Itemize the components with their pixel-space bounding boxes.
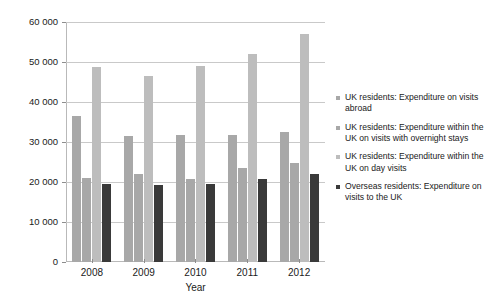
bar [134, 174, 143, 262]
bar [290, 163, 299, 262]
x-axis-tick-label: 2012 [288, 268, 310, 278]
x-axis-tick-label: 2010 [184, 268, 206, 278]
legend-item[interactable]: UK residents: Expenditure within the UK … [336, 122, 492, 145]
bar [102, 184, 111, 262]
x-axis-tick [299, 259, 300, 263]
bar-group: 2009 [118, 22, 170, 262]
legend-swatch-icon [336, 96, 340, 100]
bar [280, 132, 289, 262]
x-axis-tick-label: 2009 [133, 268, 155, 278]
bar-group: 2010 [170, 22, 222, 262]
x-axis-tick [247, 259, 248, 263]
y-axis-tick-label: 10 000 [29, 217, 58, 227]
y-axis-tick-label: 30 000 [29, 137, 58, 147]
x-axis-tick [195, 259, 196, 263]
bar-group: 2008 [66, 22, 118, 262]
x-axis-tick-label: 2011 [237, 268, 259, 278]
plot-area: 010 00020 00030 00040 00050 00060 000 20… [66, 22, 325, 262]
bar-group: 2011 [221, 22, 273, 262]
legend-swatch-icon [336, 126, 340, 130]
bar [186, 179, 195, 262]
bar [248, 54, 257, 262]
bar [300, 34, 309, 262]
bar [196, 66, 205, 262]
y-axis-tick-label: 50 000 [29, 57, 58, 67]
legend-swatch-icon [336, 185, 340, 189]
bar [124, 136, 133, 262]
x-axis-tick-label: 2008 [81, 268, 103, 278]
legend-item-label: UK residents: Expenditure on visits abro… [345, 92, 492, 115]
bar [144, 76, 153, 262]
legend-swatch-icon [336, 155, 340, 159]
bar [310, 174, 319, 262]
legend-item[interactable]: UK residents: Expenditure on visits abro… [336, 92, 492, 115]
legend-item[interactable]: UK residents: Expenditure within the UK … [336, 151, 492, 174]
bar [206, 184, 215, 262]
y-axis-tick-label: 20 000 [29, 177, 58, 187]
bar [154, 185, 163, 262]
bar [176, 135, 185, 262]
y-axis-tick [62, 262, 66, 263]
legend-item-label: UK residents: Expenditure within the UK … [345, 122, 492, 145]
y-axis-tick-label: 40 000 [29, 97, 58, 107]
bar [92, 67, 101, 262]
bar [82, 178, 91, 262]
bar-chart: 010 00020 00030 00040 00050 00060 000 20… [0, 0, 496, 301]
bar [72, 116, 81, 262]
legend-item[interactable]: Overseas residents: Expenditure on visit… [336, 181, 492, 204]
bar [258, 179, 267, 262]
x-axis-tick [92, 259, 93, 263]
y-axis-tick-label: 0 [53, 257, 58, 267]
bar [238, 168, 247, 262]
legend-item-label: Overseas residents: Expenditure on visit… [345, 181, 492, 204]
x-axis-title: Year [66, 283, 325, 293]
chart-legend: UK residents: Expenditure on visits abro… [336, 92, 492, 211]
x-axis-tick [144, 259, 145, 263]
bar-group: 2012 [273, 22, 325, 262]
y-axis-tick-label: 60 000 [29, 17, 58, 27]
bar [228, 135, 237, 262]
bar-groups: 20082009201020112012 [66, 22, 325, 262]
legend-item-label: UK residents: Expenditure within the UK … [345, 151, 492, 174]
